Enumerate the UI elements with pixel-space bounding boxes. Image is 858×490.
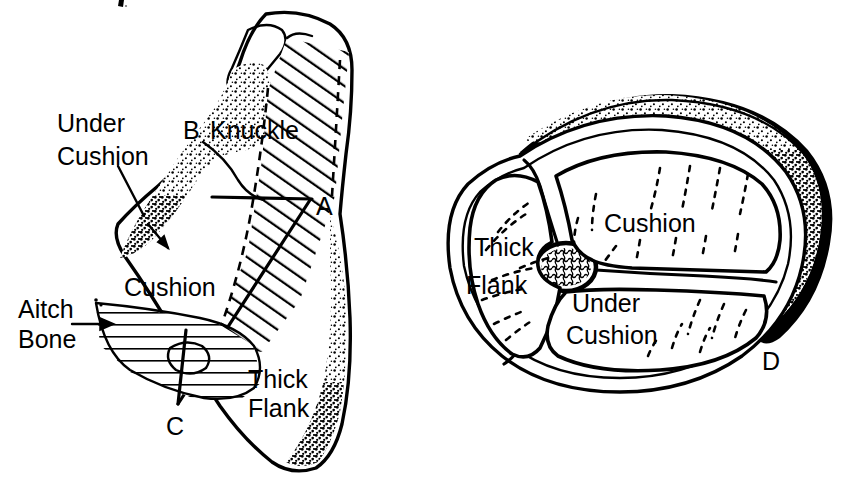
butchery-cuts-diagram: Under Cushion B Knuckle A Cushion Aitch … (0, 0, 858, 490)
point-label-b: B (183, 116, 200, 144)
label-thick-right: Thick (474, 233, 534, 261)
label-cushion-right: Cushion (604, 209, 696, 237)
left-panel-side-profile: Under Cushion B Knuckle A Cushion Aitch … (18, 12, 380, 472)
figure-root: Under Cushion B Knuckle A Cushion Aitch … (0, 0, 858, 490)
label-thick-left: Thick (248, 365, 308, 393)
point-label-d: D (762, 347, 780, 375)
label-flank-left: Flank (248, 394, 310, 422)
scan-artifact-mark (118, 0, 127, 7)
point-label-a: A (316, 192, 333, 220)
label-aitch-line2: Bone (18, 325, 76, 353)
label-knuckle: Knuckle (210, 116, 299, 144)
label-under-cushion-line1: Under (57, 109, 125, 137)
label-aitch-line1: Aitch (18, 295, 74, 323)
label-cushion-left: Cushion (124, 273, 216, 301)
label-flank-right: Flank (466, 271, 528, 299)
label-under-cushion-line2: Cushion (57, 142, 149, 170)
label-under-cushion-right-line2: Cushion (566, 321, 658, 349)
right-panel-cross-section: Thick Flank Cushion Under Cushion D (448, 90, 832, 392)
point-label-c: C (166, 412, 184, 440)
label-under-cushion-right-line1: Under (572, 289, 640, 317)
